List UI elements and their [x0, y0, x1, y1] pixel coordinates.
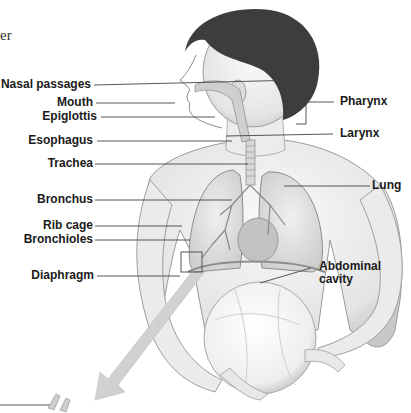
- respiratory-diagram: er Nasal passages Mouth Epiglottis Esoph…: [0, 0, 411, 413]
- label-nasal-passages: Nasal passages: [1, 78, 91, 91]
- label-rib-cage: Rib cage: [43, 219, 93, 232]
- label-epiglottis: Epiglottis: [42, 110, 97, 123]
- ball: [204, 282, 316, 394]
- label-abdominal-line2: cavity: [319, 273, 381, 286]
- anatomy-illustration: [0, 0, 411, 413]
- label-larynx: Larynx: [340, 127, 379, 140]
- title-fragment: er: [0, 27, 12, 44]
- label-abdominal-cavity: Abdominal cavity: [319, 260, 381, 286]
- head: [180, 9, 319, 142]
- label-mouth: Mouth: [57, 96, 93, 109]
- label-lung: Lung: [372, 179, 401, 192]
- label-bronchioles: Bronchioles: [24, 233, 93, 246]
- label-pharynx: Pharynx: [340, 95, 387, 108]
- label-bronchus: Bronchus: [37, 193, 93, 206]
- label-diaphragm: Diaphragm: [31, 269, 94, 282]
- label-trachea: Trachea: [48, 157, 93, 170]
- label-esophagus: Esophagus: [28, 134, 93, 147]
